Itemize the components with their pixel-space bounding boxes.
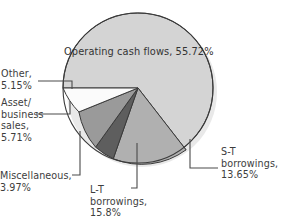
pie-label-lt-borrowings: L-T borrowings, 15.8% bbox=[90, 184, 147, 219]
pie-label-st-borrowings: S-T borrowings, 13.65% bbox=[221, 146, 278, 181]
pie-label-miscellaneous: Miscellaneous, 3.97% bbox=[0, 170, 72, 193]
pie-chart-figure: Operating cash flows, 55.72% Other, 5.15… bbox=[0, 0, 282, 224]
pie-label-other: Other, 5.15% bbox=[1, 68, 32, 91]
leader-line-miscellaneous bbox=[72, 131, 80, 175]
pie-label-asset-business-sales: Asset/ business sales, 5.71% bbox=[1, 97, 44, 143]
pie-label-operating-cash-flows: Operating cash flows, 55.72% bbox=[64, 46, 214, 58]
